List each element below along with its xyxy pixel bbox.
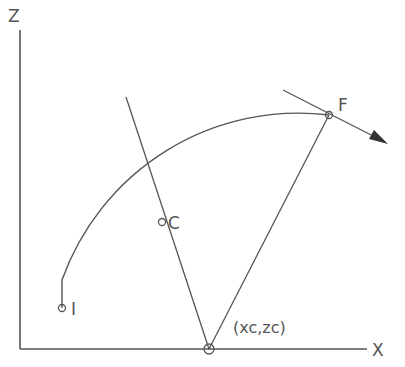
point-f-label: F (338, 95, 348, 115)
point-i-label: I (71, 299, 76, 319)
radius-line (209, 115, 329, 349)
center-label: (xc,zc) (233, 318, 286, 337)
axes: Z X (8, 6, 384, 360)
circular-arc (62, 113, 329, 308)
point-c-label: C (168, 213, 180, 233)
x-axis-label: X (372, 340, 384, 360)
tangent-arrow (283, 90, 388, 144)
z-axis-label: Z (8, 6, 20, 26)
arrowhead-icon (369, 130, 388, 144)
point-c-marker (159, 219, 166, 226)
arc-geometry-diagram: Z X I C F (xc,zc) (0, 0, 405, 367)
